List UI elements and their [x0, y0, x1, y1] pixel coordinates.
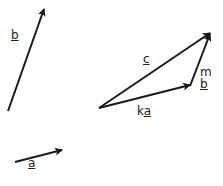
- vector-diagram: b a c ka m b: [0, 0, 223, 186]
- vector-a-arrow: [15, 150, 62, 162]
- label-mb-vec: b: [200, 77, 208, 91]
- label-ka-coef: k: [137, 104, 144, 118]
- label-ka: ka: [137, 105, 151, 117]
- label-mb: m b: [200, 66, 223, 90]
- label-ka-vec: a: [144, 104, 151, 118]
- label-a: a: [28, 157, 35, 169]
- label-c: c: [143, 53, 150, 65]
- vector-b-arrow: [8, 9, 44, 111]
- vector-c-arrow: [99, 33, 210, 108]
- label-b: b: [11, 29, 19, 41]
